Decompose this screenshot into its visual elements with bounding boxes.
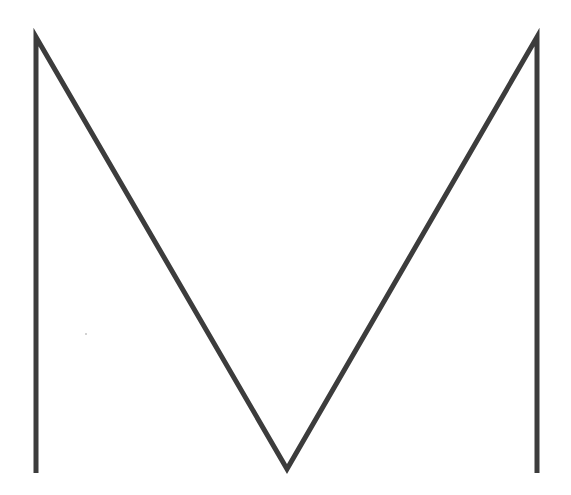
letter-m-figure — [0, 0, 571, 495]
letter-m-stroke — [36, 37, 537, 473]
stray-dot — [85, 333, 87, 335]
